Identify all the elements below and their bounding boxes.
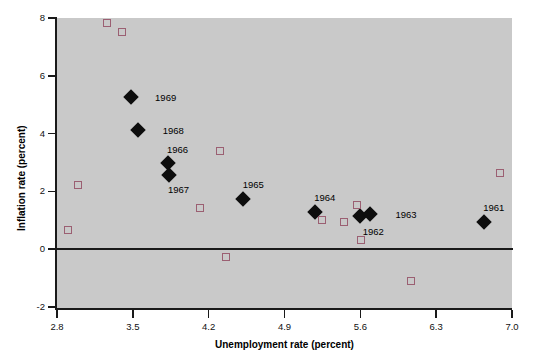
x-tick-label-6.3: 6.3 (411, 321, 461, 332)
x-tick-label-4.9: 4.9 (260, 321, 310, 332)
y-tick-label--2: -2 (13, 301, 45, 312)
data-point-open-square (64, 226, 72, 234)
y-tick-4 (48, 133, 57, 135)
x-tick-7.0 (511, 310, 513, 318)
y-tick-0 (48, 248, 57, 250)
y-tick-8 (48, 17, 57, 19)
x-tick-5.6 (360, 310, 362, 318)
data-point-open-square (357, 236, 365, 244)
data-point-open-square (318, 216, 326, 224)
data-point-open-square (74, 181, 82, 189)
x-tick-label-2.8: 2.8 (32, 321, 82, 332)
x-axis-title: Unemployment rate (percent) (135, 339, 435, 350)
data-label-1961: 1961 (483, 201, 504, 212)
data-point-open-square (118, 28, 126, 36)
data-point-open-square (103, 19, 111, 27)
data-point-open-square (216, 147, 224, 155)
x-tick-label-3.5: 3.5 (108, 321, 158, 332)
y-axis-title: Inflation rate (percent) (16, 125, 27, 231)
y-tick-label-0: 0 (13, 243, 45, 254)
x-tick-label-5.6: 5.6 (335, 321, 385, 332)
x-tick-2.8 (56, 310, 58, 318)
data-label-1965: 1965 (243, 179, 264, 190)
scatter-plot-figure: 86420-2 2.83.54.24.95.66.37.0 1969196819… (0, 0, 536, 362)
x-tick-4.9 (284, 310, 286, 318)
y-tick-6 (48, 75, 57, 77)
x-tick-label-4.2: 4.2 (184, 321, 234, 332)
data-label-1962: 1962 (363, 225, 384, 236)
data-point-open-square (340, 218, 348, 226)
data-label-1963: 1963 (396, 208, 417, 219)
data-point-open-square (496, 169, 504, 177)
data-point-open-square (222, 253, 230, 261)
y-tick-label-6: 6 (13, 70, 45, 81)
data-label-1967: 1967 (168, 183, 189, 194)
data-point-open-square (407, 277, 415, 285)
y-tick--2 (48, 306, 57, 308)
plot-area (55, 18, 513, 310)
data-label-1966: 1966 (167, 144, 188, 155)
x-tick-label-7.0: 7.0 (487, 321, 536, 332)
data-point-open-square (353, 201, 361, 209)
data-label-1969: 1969 (155, 91, 176, 102)
x-tick-4.2 (208, 310, 210, 318)
zero-reference-line (57, 248, 513, 250)
x-tick-3.5 (132, 310, 134, 318)
data-label-1964: 1964 (314, 191, 335, 202)
data-point-open-square (196, 204, 204, 212)
data-label-1968: 1968 (163, 124, 184, 135)
y-tick-label-8: 8 (13, 12, 45, 23)
y-tick-2 (48, 191, 57, 193)
x-tick-6.3 (435, 310, 437, 318)
